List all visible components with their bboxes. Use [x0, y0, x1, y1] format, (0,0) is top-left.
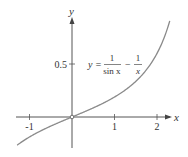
open-point: [70, 115, 74, 119]
svg-text:y =: y =: [87, 59, 102, 70]
x-tick-label: 2: [155, 121, 160, 132]
svg-text:1: 1: [136, 53, 141, 63]
chart: -112 0.5 x y y = 1 sin x − 1 x: [0, 0, 188, 157]
equation-annotation: y = 1 sin x − 1 x: [87, 53, 142, 76]
y-tick-label: 0.5: [55, 59, 68, 70]
function-curve: [17, 21, 170, 145]
x-tick-label: -1: [25, 121, 33, 132]
x-axis-arrow-icon: [165, 115, 172, 120]
svg-text:−: −: [125, 59, 131, 70]
svg-text:1: 1: [110, 53, 115, 63]
x-axis-label: x: [173, 111, 179, 123]
x-tick-label: 1: [112, 121, 117, 132]
y-axis-arrow-icon: [70, 17, 75, 24]
y-axis-label: y: [68, 5, 74, 17]
svg-text:x: x: [135, 66, 140, 76]
svg-text:sin x: sin x: [103, 66, 121, 76]
